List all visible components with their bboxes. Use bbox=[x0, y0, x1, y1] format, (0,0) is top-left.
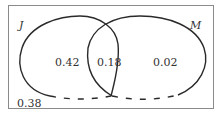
j-only-value: 0.42 bbox=[55, 57, 80, 68]
intersection-value: 0.18 bbox=[97, 57, 122, 68]
set-m-label: M bbox=[190, 20, 201, 31]
outside-value: 0.38 bbox=[17, 98, 42, 109]
set-j-label: J bbox=[19, 20, 23, 31]
m-only-value: 0.02 bbox=[153, 57, 178, 68]
set-m-bottom bbox=[112, 95, 178, 99]
set-j-bottom bbox=[50, 96, 111, 99]
